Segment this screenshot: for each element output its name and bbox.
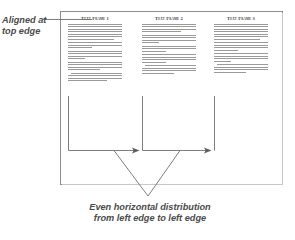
text-frame-1[interactable]: Text Frame 1 xyxy=(68,16,122,84)
illustration-canvas: Text Frame 1 Text Frame 2 Text Frame 3 xyxy=(0,0,295,240)
paragraph xyxy=(214,42,268,51)
annotation-line-2: top edge xyxy=(2,26,46,37)
annotation-line-1: Even horizontal distribution xyxy=(60,202,240,213)
paragraph xyxy=(142,54,196,63)
text-frame-1-heading: Text Frame 1 xyxy=(68,16,122,22)
paragraph xyxy=(214,53,268,62)
text-frame-2-heading: Text Frame 2 xyxy=(142,16,196,22)
annotation-line-2: from left edge to left edge xyxy=(60,213,240,224)
paragraph xyxy=(68,24,122,40)
paragraph xyxy=(142,46,196,52)
text-frame-3[interactable]: Text Frame 3 xyxy=(214,16,268,75)
paragraph xyxy=(142,35,196,44)
paragraph xyxy=(142,24,196,33)
text-frame-2[interactable]: Text Frame 2 xyxy=(142,16,196,76)
paragraph xyxy=(68,62,122,71)
annotation-line-1: Aligned at xyxy=(2,15,46,26)
text-frame-2-body xyxy=(142,24,196,74)
text-frame-3-heading: Text Frame 3 xyxy=(214,16,268,22)
text-frame-1-body xyxy=(68,24,122,82)
paragraph xyxy=(68,42,122,48)
paragraph xyxy=(142,65,196,74)
annotation-even-horizontal-distribution: Even horizontal distribution from left e… xyxy=(60,202,240,224)
paragraph xyxy=(68,51,122,60)
paragraph xyxy=(68,73,122,82)
text-frame-3-body xyxy=(214,24,268,73)
paragraph xyxy=(214,24,268,40)
annotation-aligned-at-top-edge: Aligned at top edge xyxy=(2,15,46,37)
paragraph xyxy=(214,64,268,73)
